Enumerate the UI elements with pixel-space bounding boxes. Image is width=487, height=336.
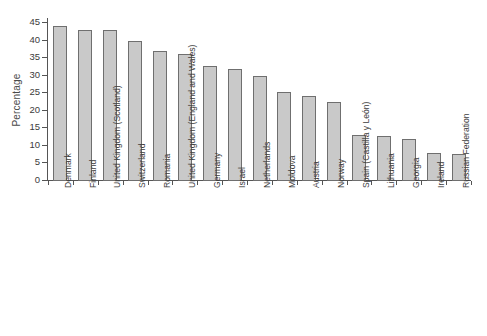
y-tick-label-text: 0 xyxy=(0,175,40,185)
x-axis-category-label: Georgia xyxy=(412,157,421,188)
y-tick-mark xyxy=(42,127,47,128)
y-tick-label: 10 xyxy=(0,140,40,150)
y-tick-mark xyxy=(42,180,47,181)
y-axis-line xyxy=(47,18,48,181)
y-tick-mark xyxy=(42,110,47,111)
x-tick-mark xyxy=(148,181,149,185)
x-tick-mark xyxy=(446,181,447,185)
x-axis-category-label: Netherlands xyxy=(263,142,272,188)
y-tick-label: 20 xyxy=(0,105,40,115)
bar-chart: Percentage 051015202530354045 DenmarkFin… xyxy=(0,0,487,336)
y-tick-label: 25 xyxy=(0,87,40,97)
x-tick-mark xyxy=(73,181,74,185)
x-axis-category-label: Norway xyxy=(337,159,346,188)
x-tick-mark xyxy=(123,181,124,185)
x-axis-category-label: Israel xyxy=(238,167,247,188)
y-tick-label: 35 xyxy=(0,52,40,62)
x-tick-mark xyxy=(272,181,273,185)
y-tick-label-text: 45 xyxy=(0,17,40,27)
y-tick-label: 15 xyxy=(0,122,40,132)
x-axis-category-label: Spain (Castilla y León) xyxy=(362,102,371,188)
x-tick-mark xyxy=(371,181,372,185)
y-tick-mark xyxy=(42,22,47,23)
x-axis-category-label: Moldova xyxy=(288,156,297,188)
x-axis-category-label: Russian Federation xyxy=(462,113,471,188)
y-tick-label-text: 15 xyxy=(0,122,40,132)
y-tick-label-text: 10 xyxy=(0,140,40,150)
y-tick-mark xyxy=(42,75,47,76)
y-tick-label-text: 5 xyxy=(0,157,40,167)
y-tick-label: 45 xyxy=(0,17,40,27)
y-tick-label-text: 35 xyxy=(0,52,40,62)
x-axis-category-label: Ireland xyxy=(437,162,446,188)
x-tick-mark xyxy=(197,181,198,185)
y-tick-mark xyxy=(42,92,47,93)
y-tick-label-text: 30 xyxy=(0,70,40,80)
y-tick-label-text: 20 xyxy=(0,105,40,115)
y-tick-mark xyxy=(42,57,47,58)
x-tick-mark xyxy=(297,181,298,185)
x-tick-mark xyxy=(247,181,248,185)
x-tick-mark xyxy=(396,181,397,185)
y-tick-label-text: 40 xyxy=(0,35,40,45)
bar xyxy=(78,30,92,181)
x-axis-category-label: Finland xyxy=(89,160,98,188)
y-tick-label-text: 25 xyxy=(0,87,40,97)
x-axis-category-label: Germany xyxy=(213,153,222,188)
x-tick-mark xyxy=(222,181,223,185)
x-tick-mark xyxy=(322,181,323,185)
x-tick-mark xyxy=(471,181,472,185)
y-tick-label: 5 xyxy=(0,157,40,167)
x-axis-category-label: Lithuania xyxy=(387,153,396,188)
x-axis-category-label: Denmark xyxy=(64,153,73,188)
x-axis-category-label: Romania xyxy=(163,154,172,188)
x-axis-category-label: Austria xyxy=(312,161,321,188)
y-tick-mark xyxy=(42,162,47,163)
y-tick-mark xyxy=(42,40,47,41)
x-axis-category-label: Switzerland xyxy=(138,144,147,188)
x-tick-mark xyxy=(347,181,348,185)
y-tick-label: 40 xyxy=(0,35,40,45)
x-tick-mark xyxy=(98,181,99,185)
x-tick-mark xyxy=(172,181,173,185)
x-axis-category-label: United Kingdom (Scotland) xyxy=(113,85,122,188)
x-tick-mark xyxy=(48,181,49,185)
bar xyxy=(228,69,242,181)
y-tick-label: 0 xyxy=(0,175,40,185)
x-axis-category-label: United Kingdom (England and Wales) xyxy=(188,45,197,188)
y-tick-label: 30 xyxy=(0,70,40,80)
y-tick-mark xyxy=(42,145,47,146)
x-tick-mark xyxy=(421,181,422,185)
